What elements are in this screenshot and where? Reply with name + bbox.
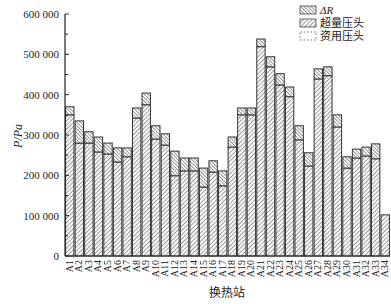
bar-A33 <box>371 144 379 256</box>
segment-delta-r <box>324 67 332 76</box>
y-axis-title: P/Pa <box>11 124 25 149</box>
bar-A32 <box>362 147 370 256</box>
segment-delta-r <box>104 143 112 154</box>
legend: ΔR超量压头资用压头 <box>300 4 364 42</box>
segment-excess-head <box>362 156 370 256</box>
y-tick-label: 600 000 <box>23 8 59 20</box>
bar-A25 <box>295 126 303 256</box>
segment-delta-r <box>257 39 265 47</box>
x-tick-label: A34 <box>379 260 390 277</box>
segment-delta-r <box>209 161 217 172</box>
segment-excess-head <box>113 162 121 256</box>
legend-swatch <box>300 6 316 14</box>
segment-excess-head <box>180 171 188 256</box>
segment-excess-head <box>314 79 322 256</box>
segment-delta-r <box>352 149 360 158</box>
segment-delta-r <box>171 151 179 176</box>
segment-delta-r <box>142 93 150 105</box>
segment-delta-r <box>266 57 274 67</box>
segment-delta-r <box>133 108 141 118</box>
segment-excess-head <box>371 159 379 256</box>
segment-excess-head <box>343 168 351 256</box>
bar-A9 <box>142 93 150 256</box>
x-axis: A1A2A3A4A5A6A7A8A9A10A11A12A13A14A15A16A… <box>64 256 390 277</box>
segment-excess-head <box>219 186 227 256</box>
segment-delta-r <box>247 108 255 115</box>
segment-excess-head <box>104 154 112 256</box>
segment-excess-head <box>199 187 207 256</box>
segment-excess-head <box>152 139 160 256</box>
bar-A22 <box>266 57 274 256</box>
stacked-bar-chart: 0100 000200 000300 000400 000500 000600 … <box>0 0 391 304</box>
segment-delta-r <box>85 132 93 143</box>
bar-A26 <box>305 153 313 256</box>
segment-excess-head <box>381 215 389 256</box>
segment-delta-r <box>94 137 102 152</box>
segment-excess-head <box>133 118 141 256</box>
bar-A6 <box>113 148 121 256</box>
segment-excess-head <box>190 171 198 256</box>
segment-delta-r <box>66 107 74 115</box>
segment-excess-head <box>266 67 274 256</box>
segment-delta-r <box>190 158 198 171</box>
y-tick-label: 0 <box>54 250 60 262</box>
legend-label: ΔR <box>319 4 333 16</box>
bar-A11 <box>161 134 169 256</box>
bar-A20 <box>247 108 255 256</box>
plot-area <box>66 39 390 256</box>
segment-excess-head <box>295 140 303 256</box>
segment-excess-head <box>324 76 332 256</box>
segment-excess-head <box>85 143 93 256</box>
bar-A15 <box>199 168 207 256</box>
bar-A5 <box>104 143 112 256</box>
bar-A2 <box>75 121 83 256</box>
bar-A31 <box>352 149 360 256</box>
bar-A12 <box>171 151 179 256</box>
segment-excess-head <box>257 47 265 256</box>
bar-A23 <box>276 74 284 256</box>
segment-delta-r <box>180 158 188 171</box>
segment-delta-r <box>75 121 83 143</box>
segment-delta-r <box>238 108 246 115</box>
legend-swatch <box>300 19 316 27</box>
bar-A10 <box>152 126 160 256</box>
segment-delta-r <box>314 69 322 79</box>
segment-excess-head <box>142 105 150 256</box>
segment-excess-head <box>333 127 341 256</box>
legend-label: 超量压头 <box>320 16 364 29</box>
bar-A30 <box>343 157 351 256</box>
segment-excess-head <box>238 115 246 256</box>
bar-A34 <box>381 215 389 256</box>
bar-A18 <box>228 137 236 256</box>
segment-excess-head <box>276 85 284 256</box>
segment-delta-r <box>276 74 284 85</box>
bar-A29 <box>333 115 341 256</box>
segment-delta-r <box>161 134 169 145</box>
legend-item: 超量压头 <box>300 16 364 29</box>
bar-A13 <box>180 158 188 256</box>
segment-excess-head <box>228 147 236 256</box>
segment-delta-r <box>228 137 236 147</box>
segment-excess-head <box>94 152 102 256</box>
bar-A3 <box>85 132 93 256</box>
bar-A1 <box>66 107 74 256</box>
segment-delta-r <box>123 148 131 157</box>
bar-A16 <box>209 161 217 256</box>
bar-A28 <box>324 67 332 256</box>
bar-A8 <box>133 108 141 256</box>
segment-excess-head <box>305 166 313 256</box>
segment-delta-r <box>152 126 160 139</box>
segment-delta-r <box>295 126 303 140</box>
bar-A17 <box>219 171 227 256</box>
bar-A14 <box>190 158 198 256</box>
y-tick-label: 400 000 <box>23 89 59 101</box>
bar-A24 <box>285 87 293 256</box>
segment-delta-r <box>113 148 121 162</box>
segment-excess-head <box>247 115 255 256</box>
bar-A21 <box>257 39 265 256</box>
segment-excess-head <box>209 172 217 256</box>
bar-A27 <box>314 69 322 256</box>
segment-delta-r <box>343 157 351 168</box>
y-tick-label: 100 000 <box>23 210 59 222</box>
segment-excess-head <box>171 176 179 256</box>
